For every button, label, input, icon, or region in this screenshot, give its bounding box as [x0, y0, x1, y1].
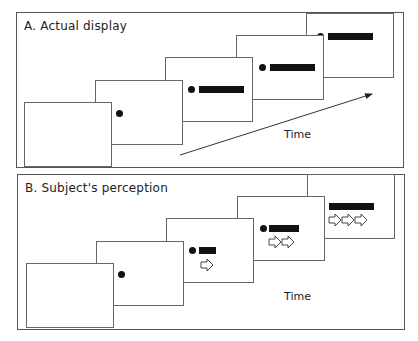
- motion-arrows: [200, 259, 216, 271]
- fixation-dot: [189, 247, 196, 254]
- time-label: Time: [284, 290, 311, 303]
- fixation-dot: [118, 271, 125, 278]
- line-bar: [329, 203, 374, 210]
- motion-arrows: [328, 214, 370, 226]
- hollow-arrow-icon: [200, 259, 216, 271]
- motion-arrows: [268, 236, 298, 248]
- line-bar: [269, 225, 299, 232]
- fixation-dot: [260, 225, 267, 232]
- line-bar: [199, 247, 216, 254]
- perceived-frame-5: [26, 263, 114, 328]
- hollow-arrow-icon: [268, 236, 298, 248]
- panel-title: B. Subject's perception: [25, 181, 168, 195]
- hollow-arrow-icon: [328, 214, 370, 226]
- time-label: Time: [284, 128, 311, 141]
